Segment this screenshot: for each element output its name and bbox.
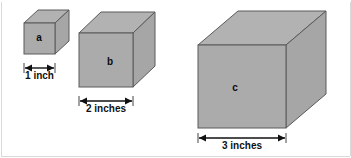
cube-a: a1 inch — [24, 10, 69, 81]
cube-c-dimension: 3 inches — [198, 133, 286, 151]
cube-b-dimension-label: 2 inches — [86, 103, 126, 114]
cube-c-dimension-label: 3 inches — [222, 140, 262, 151]
cube-a-dimension: 1 inch — [24, 63, 55, 81]
cube-b-dimension: 2 inches — [79, 96, 133, 114]
dimension-arrowhead-left — [199, 134, 206, 141]
cube-c-front-face — [198, 45, 286, 128]
cube-b-letter-label: b — [107, 56, 113, 67]
cubes-group: a1 inchb2 inchesc3 inches — [24, 10, 326, 151]
dimension-arrowhead-right — [125, 97, 132, 104]
cube-b: b2 inches — [79, 12, 155, 114]
cube-comparison-figure: a1 inchb2 inchesc3 inches — [0, 0, 351, 158]
cube-a-letter-label: a — [36, 32, 42, 43]
figure-canvas: a1 inchb2 inchesc3 inches — [0, 0, 351, 158]
cube-c-letter-label: c — [232, 82, 238, 93]
cube-a-dimension-label: 1 inch — [25, 70, 54, 81]
dimension-arrowhead-right — [278, 134, 285, 141]
cube-c: c3 inches — [198, 11, 326, 151]
